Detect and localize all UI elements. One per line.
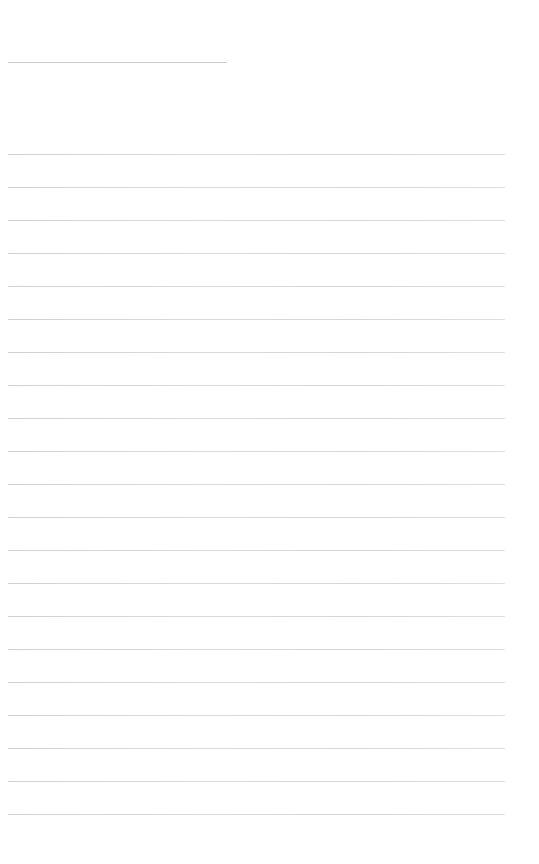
text-line <box>8 748 505 749</box>
text-line <box>8 418 505 419</box>
text-line <box>8 550 505 551</box>
text-line <box>8 220 505 221</box>
text-line <box>8 451 505 452</box>
text-line <box>8 814 505 815</box>
text-line <box>8 187 505 188</box>
text-line <box>8 649 505 650</box>
text-line <box>8 484 505 485</box>
text-line <box>8 253 505 254</box>
text-line <box>8 781 505 782</box>
title-line <box>8 62 227 63</box>
text-line <box>8 682 505 683</box>
text-line <box>8 286 505 287</box>
text-line <box>8 319 505 320</box>
text-line <box>8 385 505 386</box>
text-line <box>8 154 505 155</box>
text-line <box>8 517 505 518</box>
text-line <box>8 616 505 617</box>
text-line <box>8 715 505 716</box>
text-line <box>8 583 505 584</box>
text-line <box>8 352 505 353</box>
